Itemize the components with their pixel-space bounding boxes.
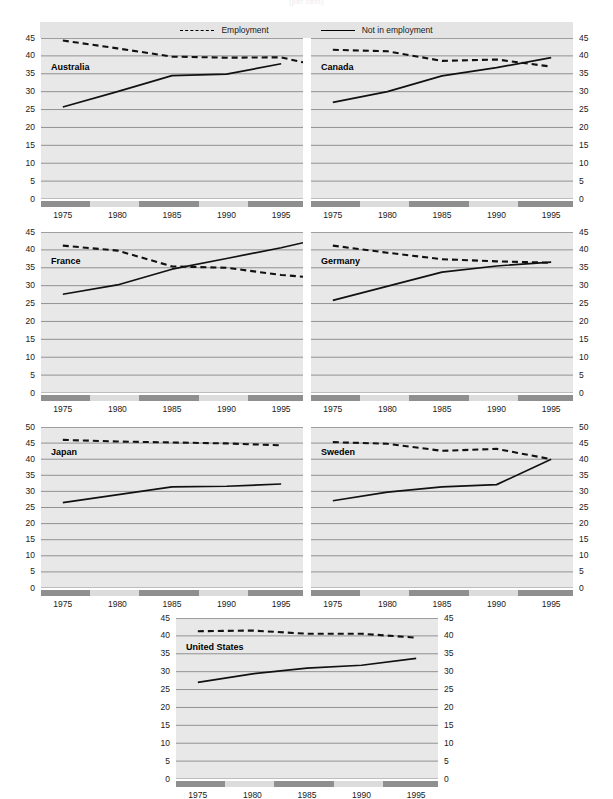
y-axis-tick-label: 20 bbox=[444, 703, 466, 712]
x-axis-band-segment bbox=[360, 590, 409, 596]
solid-line-icon bbox=[321, 30, 355, 31]
y-axis-tick-label: 20 bbox=[13, 519, 35, 528]
y-axis-tick-label: 0 bbox=[444, 775, 466, 784]
x-axis-band bbox=[311, 590, 573, 596]
y-axis-tick-label: 10 bbox=[579, 551, 601, 560]
y-axis-tick-label: 35 bbox=[13, 69, 35, 78]
y-axis-tick-label: 30 bbox=[148, 667, 170, 676]
x-axis-band-segment bbox=[90, 201, 139, 207]
x-axis-tick-label: 1985 bbox=[422, 600, 462, 609]
y-axis-tick-label: 20 bbox=[13, 317, 35, 326]
series-line-not-in-employment bbox=[63, 484, 281, 503]
x-axis-tick-label: 1975 bbox=[178, 791, 218, 799]
y-axis-tick-label: 25 bbox=[13, 105, 35, 114]
panel-country-label: Sweden bbox=[319, 448, 357, 458]
x-axis-band-segment bbox=[274, 781, 334, 787]
y-axis-tick-label: 10 bbox=[579, 159, 601, 168]
y-axis-tick-label: 15 bbox=[148, 721, 170, 730]
y-axis-tick-label: 35 bbox=[13, 471, 35, 480]
chart-panel-sweden: Sweden bbox=[311, 427, 573, 588]
chart-panel-japan: Japan bbox=[41, 427, 303, 588]
x-axis-band-segment bbox=[311, 395, 360, 401]
y-axis-tick-label: 45 bbox=[13, 34, 35, 43]
x-axis-tick-label: 1980 bbox=[97, 600, 137, 609]
y-axis-tick-label: 5 bbox=[579, 567, 601, 576]
x-axis-band-segment bbox=[90, 395, 139, 401]
y-axis-tick-label: 5 bbox=[13, 371, 35, 380]
x-axis-band-segment bbox=[334, 781, 383, 787]
x-axis-band-segment bbox=[90, 590, 139, 596]
y-axis-tick-label: 20 bbox=[579, 123, 601, 132]
x-axis-band bbox=[311, 395, 573, 401]
x-axis-tick-label: 1975 bbox=[43, 405, 83, 414]
y-axis-tick-label: 15 bbox=[13, 141, 35, 150]
x-axis-band bbox=[41, 590, 303, 596]
series-line-not-in-employment bbox=[333, 459, 551, 501]
y-axis-tick-label: 15 bbox=[579, 535, 601, 544]
y-axis-tick-label: 20 bbox=[148, 703, 170, 712]
y-axis-tick-label: 10 bbox=[579, 353, 601, 362]
y-axis-tick-label: 0 bbox=[13, 389, 35, 398]
legend-label-not-in-employment: Not in employment bbox=[362, 25, 433, 35]
series-line-not-in-employment bbox=[63, 64, 281, 107]
x-axis-band-segment bbox=[518, 395, 573, 401]
y-axis-tick-label: 45 bbox=[13, 228, 35, 237]
x-axis-tick-label: 1985 bbox=[152, 600, 192, 609]
chart-panel-germany: Germany bbox=[311, 232, 573, 393]
x-axis-tick-label: 1975 bbox=[313, 211, 353, 220]
y-axis-tick-label: 30 bbox=[13, 281, 35, 290]
y-axis-tick-label: 5 bbox=[444, 757, 466, 766]
y-axis-tick-label: 5 bbox=[579, 371, 601, 380]
y-axis-tick-label: 30 bbox=[579, 87, 601, 96]
x-axis-tick-label: 1980 bbox=[367, 211, 407, 220]
x-axis-band bbox=[41, 201, 303, 207]
x-axis-band-segment bbox=[409, 201, 469, 207]
y-axis-tick-label: 50 bbox=[13, 423, 35, 432]
x-axis-tick-label: 1985 bbox=[422, 405, 462, 414]
x-axis-tick-label: 1980 bbox=[97, 211, 137, 220]
x-axis-tick-label: 1995 bbox=[261, 405, 301, 414]
x-axis-band-segment bbox=[176, 781, 225, 787]
y-axis-tick-label: 20 bbox=[579, 519, 601, 528]
x-axis-tick-label: 1985 bbox=[152, 405, 192, 414]
y-axis-tick-label: 0 bbox=[13, 584, 35, 593]
panel-country-label: Australia bbox=[49, 63, 92, 73]
x-axis-tick-label: 1975 bbox=[313, 405, 353, 414]
y-axis-tick-label: 10 bbox=[148, 739, 170, 748]
x-axis-band-segment bbox=[199, 590, 248, 596]
x-axis-band-segment bbox=[518, 201, 573, 207]
y-axis-tick-label: 35 bbox=[13, 263, 35, 272]
series-line-employment bbox=[63, 41, 303, 63]
series-line-employment bbox=[198, 631, 416, 638]
chart-panel-united-states: United States bbox=[176, 618, 438, 779]
x-axis-tick-label: 1985 bbox=[152, 211, 192, 220]
x-axis-tick-label: 1995 bbox=[531, 600, 571, 609]
y-axis-tick-label: 45 bbox=[444, 614, 466, 623]
y-axis-tick-label: 30 bbox=[579, 281, 601, 290]
figure-title: (per cent) bbox=[0, 0, 613, 5]
chart-panel-france: France bbox=[41, 232, 303, 393]
x-axis-band-segment bbox=[41, 201, 90, 207]
y-axis-tick-label: 30 bbox=[13, 487, 35, 496]
x-axis-tick-label: 1995 bbox=[261, 211, 301, 220]
y-axis-tick-label: 30 bbox=[444, 667, 466, 676]
y-axis-tick-label: 25 bbox=[13, 299, 35, 308]
y-axis-tick-label: 45 bbox=[579, 228, 601, 237]
y-axis-tick-label: 10 bbox=[444, 739, 466, 748]
dashed-line-icon bbox=[180, 30, 214, 31]
y-axis-tick-label: 5 bbox=[13, 177, 35, 186]
y-axis-tick-label: 45 bbox=[579, 439, 601, 448]
x-axis-band-segment bbox=[311, 201, 360, 207]
y-axis-tick-label: 20 bbox=[579, 317, 601, 326]
x-axis-band-segment bbox=[383, 781, 438, 787]
x-axis-tick-label: 1990 bbox=[477, 405, 517, 414]
y-axis-tick-label: 35 bbox=[444, 649, 466, 658]
x-axis-band-segment bbox=[360, 395, 409, 401]
y-axis-tick-label: 35 bbox=[579, 263, 601, 272]
x-axis-band-segment bbox=[311, 590, 360, 596]
x-axis-band-segment bbox=[199, 395, 248, 401]
y-axis-tick-label: 25 bbox=[13, 503, 35, 512]
y-axis-tick-label: 0 bbox=[579, 584, 601, 593]
series-line-employment bbox=[333, 246, 551, 263]
x-axis-band-segment bbox=[518, 590, 573, 596]
